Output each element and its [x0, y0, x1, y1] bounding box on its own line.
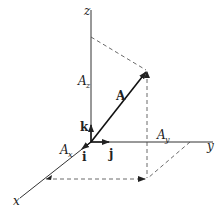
z-axis-label: z — [83, 4, 91, 18]
unit-vector-i-label: i — [82, 150, 87, 164]
vector-a-label: A — [115, 89, 126, 103]
y-axis-label: y — [206, 139, 214, 153]
unit-vector-i-arrow — [82, 142, 91, 149]
unit-vector-j-label: j — [108, 147, 113, 161]
x-axis-label: x — [13, 194, 20, 208]
ax-subscript: x — [68, 150, 73, 159]
unit-vector-k-label: k — [80, 120, 89, 134]
x-axis — [20, 142, 91, 198]
vector-diagram: z y x A A z A y A x k j i — [0, 0, 221, 209]
dashed-y-to-base — [148, 142, 190, 178]
dashed-z-to-tip — [91, 37, 146, 70]
ay-subscript: y — [164, 135, 170, 144]
vector-a-arrow — [91, 72, 146, 142]
az-subscript: z — [85, 81, 91, 90]
